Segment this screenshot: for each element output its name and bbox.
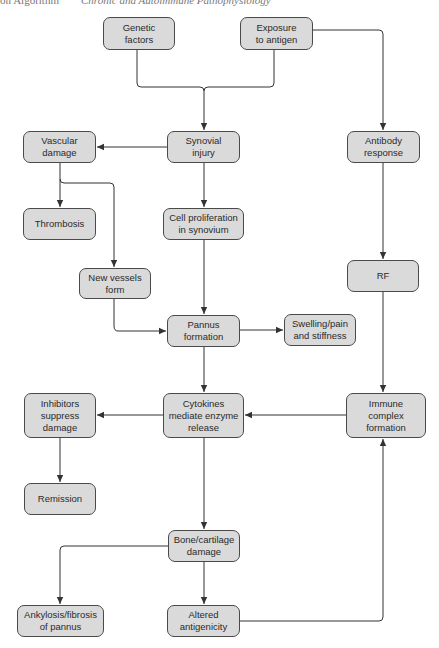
node-label: Ankylosis/fibrosis of pannus bbox=[24, 609, 97, 633]
node-label: Swelling/pain and stiffness bbox=[292, 318, 348, 342]
node-inhibitors-suppress-damage: Inhibitors suppress damage bbox=[24, 393, 96, 438]
node-label: Bone/cartilage damage bbox=[174, 534, 235, 558]
node-remission: Remission bbox=[24, 483, 96, 515]
node-label: Thrombosis bbox=[35, 218, 85, 230]
node-label: Exposure to antigen bbox=[256, 22, 298, 46]
node-ankylosis-fibrosis: Ankylosis/fibrosis of pannus bbox=[17, 605, 104, 637]
node-bone-cartilage-damage: Bone/cartilage damage bbox=[168, 530, 240, 562]
node-exposure-to-antigen: Exposure to antigen bbox=[240, 17, 313, 50]
node-label: Synovial injury bbox=[186, 135, 222, 159]
node-pannus-formation: Pannus formation bbox=[167, 315, 240, 347]
node-label: Cell proliferation in synovium bbox=[169, 212, 238, 236]
node-label: Remission bbox=[38, 493, 82, 505]
node-altered-antigenicity: Altered antigenicity bbox=[167, 605, 240, 637]
node-label: RF bbox=[377, 270, 390, 282]
node-label: Genetic factors bbox=[123, 22, 156, 46]
node-new-vessels-form: New vessels form bbox=[79, 268, 151, 299]
node-vascular-damage: Vascular damage bbox=[23, 131, 96, 163]
node-cell-proliferation: Cell proliferation in synovium bbox=[163, 208, 244, 240]
node-cytokines-mediate-enzyme-release: Cytokines mediate enzyme release bbox=[163, 393, 244, 438]
node-immune-complex-formation: Immune complex formation bbox=[346, 393, 426, 438]
node-label: Inhibitors suppress damage bbox=[41, 398, 80, 434]
node-rf: RF bbox=[347, 260, 419, 292]
node-antibody-response: Antibody response bbox=[347, 131, 420, 163]
node-label: Antibody response bbox=[364, 135, 403, 159]
node-label: Vascular damage bbox=[41, 135, 77, 159]
node-label: Cytokines mediate enzyme release bbox=[169, 398, 239, 434]
node-label: Pannus formation bbox=[184, 319, 224, 343]
node-synovial-injury: Synovial injury bbox=[167, 131, 240, 163]
node-label: New vessels form bbox=[88, 272, 141, 296]
node-swelling-pain-stiffness: Swelling/pain and stiffness bbox=[284, 314, 356, 346]
node-label: Immune complex formation bbox=[366, 398, 406, 434]
node-label: Altered antigenicity bbox=[180, 609, 228, 633]
node-genetic-factors: Genetic factors bbox=[103, 17, 175, 50]
node-thrombosis: Thrombosis bbox=[23, 208, 96, 240]
